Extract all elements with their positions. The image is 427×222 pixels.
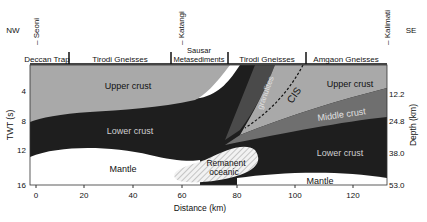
svg-text:0: 0 xyxy=(34,191,39,200)
label-mantle-left: Mantle xyxy=(109,164,136,174)
label-lower-crust-right: Lower crust xyxy=(317,148,364,158)
y-right-label: Depth (km) xyxy=(408,104,418,146)
label-remnant-bottom: oceanic xyxy=(209,167,239,177)
unit-sausar-top: Sausar xyxy=(187,46,211,55)
cross-section-diagram: Deccan Trap Tirodi Gneisses Sausar Metas… xyxy=(0,0,427,222)
geology-units-bar: Deccan Trap Tirodi Gneisses Sausar Metas… xyxy=(24,46,387,64)
unit-tirodi-gneisses-2: Tirodi Gneisses xyxy=(239,55,294,64)
location-katangi: – Katangi xyxy=(177,11,186,45)
unit-tirodi-gneisses-1: Tirodi Gneisses xyxy=(92,55,147,64)
direction-se: SE xyxy=(406,26,417,35)
direction-nw: NW xyxy=(6,26,20,35)
svg-text:24.8: 24.8 xyxy=(389,117,405,126)
unit-deccan-trap: Deccan Trap xyxy=(24,55,70,64)
y-axis-left: 4 8 12 16 TWT (s) xyxy=(5,87,27,190)
location-seoni: – Seoni xyxy=(32,18,41,45)
label-upper-crust-left: Upper crust xyxy=(105,81,152,91)
location-kalimati: – Kalimati xyxy=(383,10,392,45)
svg-text:8: 8 xyxy=(22,117,27,126)
svg-text:40: 40 xyxy=(129,191,138,200)
svg-text:20: 20 xyxy=(80,191,89,200)
svg-text:100: 100 xyxy=(288,191,302,200)
svg-text:60: 60 xyxy=(178,191,187,200)
label-mantle-right: Mantle xyxy=(306,176,333,186)
svg-text:12.2: 12.2 xyxy=(389,90,405,99)
y-left-label: TWT (s) xyxy=(5,110,15,141)
label-lower-crust-left: Lower crust xyxy=(107,126,154,136)
svg-text:4: 4 xyxy=(22,87,27,96)
unit-sausar-bottom: Metasediments xyxy=(174,55,225,64)
y-axis-right: 12.2 24.8 38.0 53.0 Depth (km) xyxy=(389,90,418,190)
svg-text:16: 16 xyxy=(17,181,26,190)
x-axis-label: Distance (km) xyxy=(174,203,227,213)
svg-text:80: 80 xyxy=(233,191,242,200)
unit-amgaon-gneisses: Amgaon Gneisses xyxy=(313,55,378,64)
x-axis: 0 20 40 60 80 100 120 Distance (km) xyxy=(34,185,360,213)
svg-text:38.0: 38.0 xyxy=(389,149,405,158)
svg-text:120: 120 xyxy=(346,191,360,200)
svg-text:12: 12 xyxy=(17,146,26,155)
svg-text:53.0: 53.0 xyxy=(389,181,405,190)
label-upper-crust-right: Upper crust xyxy=(327,79,374,89)
